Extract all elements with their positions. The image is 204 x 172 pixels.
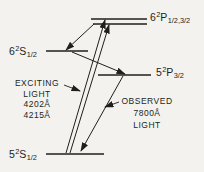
observed-note-line1: OBSERVED — [117, 95, 177, 107]
level-label-6s-letter: S — [19, 45, 26, 57]
exciting-pointer-arrow — [64, 85, 80, 91]
observed-light-note: OBSERVED 7800Å LIGHT — [117, 95, 177, 131]
level-label-6p-letter: P — [160, 11, 167, 23]
level-label-5p: 52P3/2 — [156, 66, 184, 79]
observed-note-line3: LIGHT — [117, 119, 177, 131]
level-label-5s-letter: S — [19, 148, 26, 160]
observed-note-wavelength-7800: 7800Å — [117, 107, 177, 119]
decay-arrow-6p-to-6s — [66, 24, 94, 50]
exciting-note-wavelength-4202: 4202Å — [9, 99, 65, 110]
level-label-5p-sub: 3/2 — [174, 71, 184, 80]
decay-arrow-6s-to-5p — [72, 52, 125, 74]
level-label-5p-letter: P — [166, 66, 173, 78]
level-label-6p-sub: 1/2,3/2 — [168, 16, 190, 25]
exciting-note-wavelength-4215: 4215Å — [9, 110, 65, 121]
exciting-light-note: EXCITING LIGHT 4202Å 4215Å — [9, 78, 65, 120]
level-label-5s: 52S1/2 — [9, 148, 37, 161]
exciting-note-line1: EXCITING — [9, 78, 65, 89]
exciting-note-line2: LIGHT — [9, 89, 65, 100]
level-label-6p: 62P1/2,3/2 — [150, 11, 190, 24]
level-label-5s-sub: 1/2 — [27, 153, 37, 162]
energy-level-diagram: 62P1/2,3/2 62S1/2 52P3/2 52S1/2 EXCITING… — [0, 0, 204, 172]
level-label-6s: 62S1/2 — [9, 45, 37, 58]
level-label-6s-sub: 1/2 — [27, 50, 37, 59]
excitation-arrow-4202 — [66, 20, 105, 153]
